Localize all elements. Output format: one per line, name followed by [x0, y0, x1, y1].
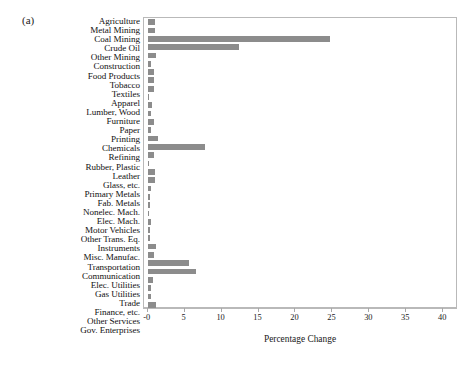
- x-axis-tick: [405, 308, 406, 312]
- bar: [148, 235, 150, 241]
- bar: [148, 177, 155, 183]
- bar-row: [144, 226, 456, 234]
- bar: [148, 102, 152, 108]
- bar-row: [144, 159, 456, 167]
- bar-row: [144, 193, 456, 201]
- x-axis-tick-label: 15: [253, 313, 261, 322]
- bar-row: [144, 35, 456, 43]
- bar: [148, 77, 155, 83]
- x-axis-tick: [221, 308, 222, 312]
- plot-frame: [143, 17, 457, 308]
- bar: [148, 69, 155, 75]
- x-axis-tick-label: 25: [327, 313, 335, 322]
- bar: [148, 227, 151, 233]
- bar-row: [144, 134, 456, 142]
- x-axis-tick: [147, 308, 148, 312]
- bar-row: [144, 259, 456, 267]
- bar: [148, 19, 155, 25]
- bar-row: [144, 18, 456, 26]
- bar-row: [144, 60, 456, 68]
- bar: [148, 211, 149, 217]
- bar-row: [144, 51, 456, 59]
- x-axis-tick: [184, 308, 185, 312]
- bar: [148, 202, 151, 208]
- bar-row: [144, 176, 456, 184]
- bar: [148, 28, 155, 34]
- bar: [148, 152, 155, 158]
- bar-row: [144, 143, 456, 151]
- bar: [148, 219, 151, 225]
- bar: [148, 136, 158, 142]
- x-axis-line: [143, 308, 457, 309]
- bars-container: [144, 18, 456, 307]
- bar: [148, 53, 156, 59]
- bar: [148, 302, 156, 308]
- x-axis-tick-label: 20: [290, 313, 298, 322]
- bar-row: [144, 168, 456, 176]
- bar-row: [144, 76, 456, 84]
- bar: [148, 119, 155, 125]
- bar-row: [144, 218, 456, 226]
- bar-row: [144, 43, 456, 51]
- bar: [148, 285, 152, 291]
- x-axis-tick-label: 5: [182, 313, 186, 322]
- bar-row: [144, 242, 456, 250]
- x-axis-tick-label: 30: [364, 313, 372, 322]
- x-axis-tick: [368, 308, 369, 312]
- y-axis-label: Gov. Enterprises: [40, 326, 140, 335]
- x-axis-tick-label: -0: [143, 313, 150, 322]
- bar: [148, 161, 149, 167]
- bar: [148, 86, 155, 92]
- bar-row: [144, 292, 456, 300]
- bar-row: [144, 209, 456, 217]
- bar-row: [144, 26, 456, 34]
- x-axis-tick: [258, 308, 259, 312]
- bar-row: [144, 251, 456, 259]
- bar-row: [144, 109, 456, 117]
- bar: [148, 127, 152, 133]
- x-axis-tick: [294, 308, 295, 312]
- bar: [148, 61, 152, 67]
- x-axis-title: Percentage Change: [143, 334, 457, 344]
- bar-row: [144, 101, 456, 109]
- bar: [148, 294, 152, 300]
- bar: [148, 186, 152, 192]
- figure-panel-a: (a) AgricultureMetal MiningCoal MiningCr…: [0, 0, 472, 366]
- bar-row: [144, 68, 456, 76]
- bar-row: [144, 267, 456, 275]
- x-axis-tick-label: 40: [438, 313, 446, 322]
- x-axis-tick: [331, 308, 332, 312]
- y-axis-category-labels: AgricultureMetal MiningCoal MiningCrude …: [40, 17, 140, 308]
- bar-row: [144, 201, 456, 209]
- bar: [148, 94, 149, 100]
- bar: [148, 194, 151, 200]
- bar: [148, 244, 156, 250]
- x-axis-tick: [442, 308, 443, 312]
- x-axis-tick-label: 35: [401, 313, 409, 322]
- bar: [148, 252, 154, 258]
- bar-row: [144, 151, 456, 159]
- bar-row: [144, 234, 456, 242]
- bar-row: [144, 118, 456, 126]
- bar-row: [144, 284, 456, 292]
- bar: [148, 260, 189, 266]
- bar-row: [144, 184, 456, 192]
- bar-row: [144, 85, 456, 93]
- bar-row: [144, 126, 456, 134]
- bar: [148, 144, 205, 150]
- bar: [148, 277, 153, 283]
- bar: [148, 111, 151, 117]
- bar: [148, 269, 197, 275]
- x-axis-tick-label: 10: [216, 313, 224, 322]
- bar: [148, 36, 330, 42]
- bar-row: [144, 276, 456, 284]
- bar: [148, 169, 155, 175]
- panel-label: (a): [22, 14, 34, 26]
- bar: [148, 44, 239, 50]
- bar-row: [144, 93, 456, 101]
